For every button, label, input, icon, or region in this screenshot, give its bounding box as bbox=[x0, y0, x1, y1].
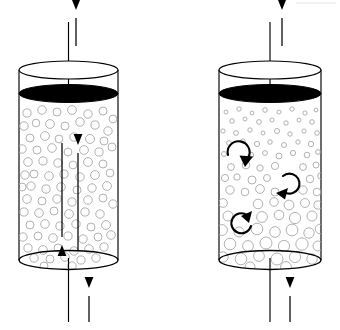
left-vessel-rim bbox=[19, 61, 118, 79]
bubble-column-figure bbox=[0, 0, 340, 330]
left-bubble-field bbox=[18, 106, 117, 271]
panel-left-homogeneous bbox=[18, 0, 118, 322]
left-inlet-arrow bbox=[85, 277, 94, 322]
right-vessel-rim bbox=[219, 61, 321, 79]
right-circulation-arrow-lower bbox=[231, 211, 252, 233]
left-upflow-arrow bbox=[74, 134, 83, 250]
left-outlet-arrow bbox=[72, 0, 81, 46]
panel-right-heterogeneous bbox=[217, 0, 325, 322]
right-outlet-arrow bbox=[278, 0, 287, 46]
right-circulation-arrow-middle bbox=[276, 174, 299, 200]
left-liquid-surface bbox=[19, 85, 118, 103]
figure-canvas bbox=[0, 0, 340, 330]
scan-edge-mark bbox=[296, 2, 336, 4]
right-inlet-arrow bbox=[286, 277, 295, 322]
right-liquid-surface bbox=[219, 85, 321, 103]
right-bubble-field bbox=[217, 107, 325, 273]
